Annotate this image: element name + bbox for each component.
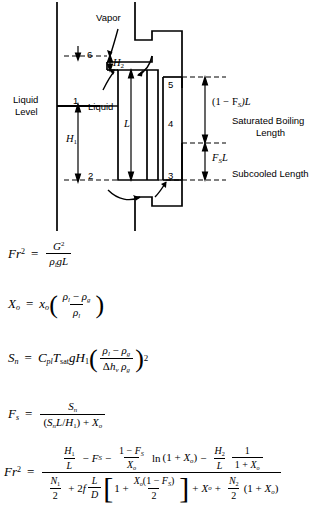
eq2-paren-close: ): [95, 293, 104, 316]
arrow-6-head: [76, 53, 81, 60]
eq4-equals: =: [25, 406, 32, 422]
equation-list: Fr2 = G2 ρlgL Xo = xo ( ρl − ρg ρl ) Sn …: [0, 232, 333, 511]
liquid-level-label-line1: Liquid: [13, 94, 38, 105]
eq2-lhs: Xo: [8, 296, 20, 312]
eq3-equals: =: [25, 350, 32, 366]
eq4-lhs: Fs: [8, 406, 19, 422]
eq5-numerator: H1 L − FS − 1 − FS Xo ln (1 + Xo) − H2: [56, 444, 267, 472]
saturated-boiling-label-line1: Saturated Boiling: [232, 115, 304, 126]
eq3-paren-open: (: [89, 347, 98, 370]
eq5-lhs: Fr2: [4, 464, 21, 480]
eq2-fraction: ρl − ρg ρl: [60, 290, 94, 319]
station-number-2: 2: [88, 170, 93, 181]
liquid-label: Liquid: [88, 101, 113, 112]
station-number-3: 3: [168, 170, 173, 181]
eq3-exponent: 2: [144, 353, 149, 363]
recirc-right-arrowhead: [161, 182, 167, 189]
liquid-inflow-curve: [103, 72, 114, 90]
subcooled-length-expression: FSL: [212, 152, 228, 165]
subcooled-length-label: Subcooled Length: [232, 168, 309, 179]
eq2-paren-open: (: [49, 293, 58, 316]
equation-froude-number: Fr2 = G2 ρlgL: [8, 240, 73, 268]
arrow-h1-down: [76, 174, 81, 182]
eq5-bracket-open: [: [103, 475, 113, 501]
saturated-boiling-length-expression: (1 − FS)L: [212, 96, 251, 109]
eq3-lhs: Sn: [8, 350, 19, 366]
equation-subcooling-number: Sn = CplTsatgH1 ( ρl − ρg Δhv ρg ) 2: [8, 344, 148, 373]
eq4-fraction: Sn (SnL/H1) + Xo: [40, 400, 105, 429]
vapor-outlet-arrowhead: [137, 70, 143, 77]
eq5-bracket-close: ]: [179, 475, 189, 501]
vapor-outlet-curve: [138, 56, 152, 75]
eq3-paren-group: ( ρl − ρg Δhv ρg ) 2: [89, 344, 148, 373]
h1-dimension-label: H1: [66, 133, 77, 146]
equation-exit-quality: Xo = xo ( ρl − ρg ρl ): [8, 290, 104, 319]
equation-subcooled-fraction: Fs = Sn (SnL/H1) + Xo: [8, 400, 107, 429]
dimension-arrows: [76, 46, 208, 182]
eq2-equals: =: [26, 296, 33, 312]
eq5-equals: =: [27, 464, 34, 480]
eq1-lhs: Fr2: [8, 246, 25, 262]
eq3-fraction: ρl − ρg Δhv ρg: [100, 344, 134, 373]
vapor-label: Vapor: [96, 12, 121, 23]
station-number-5: 5: [168, 79, 173, 90]
eq1-fraction: G2 ρlgL: [46, 240, 71, 268]
eq1-equals: =: [31, 246, 38, 262]
h2-dimension-label: H2: [113, 57, 124, 70]
boiling-channel-diagram: Vapor Liquid Level Liquid Saturated Boil…: [0, 0, 333, 232]
channel-length-label: L: [124, 118, 130, 129]
station-number-4: 4: [168, 118, 173, 129]
eq3-paren-close: ): [135, 347, 144, 370]
saturated-boiling-label-line2: Length: [256, 127, 285, 138]
flow-arrows: [103, 29, 166, 200]
eq5-denominator: N1 2 + 2f L D [ 1 + Xo(1 − FS) 2 ]: [42, 472, 281, 501]
eq3-coefficients: CplTsatgH1: [38, 350, 89, 366]
station-number-1: 1: [73, 95, 78, 106]
eq2-x-term: xo: [39, 296, 49, 312]
eq5-fraction: H1 L − FS − 1 − FS Xo ln (1 + Xo) − H2: [42, 444, 281, 501]
liquid-level-label-line2: Level: [15, 106, 38, 117]
equation-froude-number-full: Fr2 = H1 L − FS − 1 − FS Xo ln: [4, 444, 283, 501]
station-dashed-lines: [64, 56, 226, 180]
station-number-6: 6: [87, 49, 92, 60]
